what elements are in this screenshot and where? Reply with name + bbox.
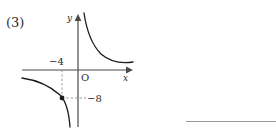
y-axis-label: y <box>66 13 73 23</box>
marked-point-neg4-neg8 <box>60 96 65 101</box>
curve-branch-quadrant-3 <box>22 78 70 127</box>
y-tick-label-neg8: −8 <box>87 93 102 104</box>
hyperbola-graph: y x O −4 −8 <box>0 0 276 133</box>
figure-container: (3) y x O −4 −8 <box>0 0 276 133</box>
curve-branch-quadrant-1 <box>84 13 133 63</box>
x-tick-label-neg4: −4 <box>49 56 64 67</box>
x-axis-label: x <box>123 73 128 83</box>
y-axis-arrowhead <box>75 14 82 21</box>
origin-label: O <box>81 72 89 83</box>
